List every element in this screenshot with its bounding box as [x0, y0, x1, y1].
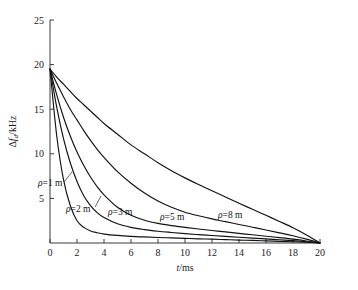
y-axis-title-text: Δfd/kHz: [7, 115, 20, 148]
curve-rho-8: [50, 69, 320, 243]
y-tick-label: 5: [39, 193, 44, 204]
x-tick-label: 8: [156, 247, 161, 258]
y-axis-title: Δfd/kHz: [7, 115, 20, 148]
x-tick-label: 0: [48, 247, 53, 258]
x-tick-label: 2: [75, 247, 80, 258]
leader-line-rho-2: [95, 196, 101, 207]
curve-label-rho-1: ρ=1 m: [37, 178, 63, 188]
x-tick-label: 16: [261, 247, 271, 258]
y-tick-label: 20: [34, 59, 44, 70]
x-tick-label: 6: [129, 247, 134, 258]
x-tick-label: 12: [207, 247, 217, 258]
y-axis-ticks: 510152025: [34, 15, 54, 204]
x-tick-label: 10: [180, 247, 190, 258]
axis-titles: t/ms Δfd/kHz: [7, 115, 194, 273]
leader-line-rho-1: [64, 172, 72, 182]
y-tick-label: 25: [34, 15, 44, 26]
curve-label-rho-3: ρ=3 m: [107, 207, 133, 217]
figure-container: 02468101214161820 510152025 ρ=1 mρ=2 mρ=…: [0, 0, 358, 290]
doppler-decay-chart: 02468101214161820 510152025 ρ=1 mρ=2 mρ=…: [0, 0, 358, 290]
y-tick-label: 15: [34, 104, 44, 115]
x-tick-label: 4: [102, 247, 107, 258]
data-curves: [50, 69, 320, 243]
x-tick-label: 20: [315, 247, 325, 258]
curve-label-rho-2: ρ=2 m: [65, 204, 91, 214]
curve-rho-2: [50, 69, 320, 243]
curve-rho-1: [50, 69, 320, 243]
x-tick-label: 14: [234, 247, 244, 258]
x-axis-title: t/ms: [176, 262, 193, 273]
y-tick-label: 10: [34, 148, 44, 159]
curve-rho-5: [50, 69, 320, 243]
x-tick-label: 18: [288, 247, 298, 258]
curve-label-rho-8: ρ=8 m: [217, 210, 243, 220]
curve-rho-3: [50, 69, 320, 243]
curve-label-rho-5: ρ=5 m: [159, 212, 185, 222]
